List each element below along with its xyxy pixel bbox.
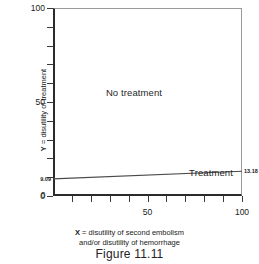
y-axis-title-text: = disutility of treatment [39, 69, 48, 146]
annotation-y-intercept: 9.09 [25, 176, 51, 182]
figure-11-11: No treatment Treatment 050100 050100 9.0… [0, 0, 259, 264]
y-tick-40 [47, 121, 53, 122]
y-axis-title-variable: Y [39, 146, 48, 151]
y-tick-30 [47, 140, 53, 141]
region-label-no-treatment: No treatment [106, 87, 162, 98]
x-tick-10 [72, 196, 73, 202]
x-tick-label-50: 50 [143, 207, 152, 217]
x-tick-100 [242, 196, 243, 202]
figure-caption: Figure 11.11 [0, 247, 259, 261]
x-tick-80 [204, 196, 205, 202]
x-tick-20 [91, 196, 92, 202]
x-tick-30 [110, 196, 111, 202]
y-tick-50 [47, 102, 53, 103]
x-tick-label-100: 100 [235, 207, 249, 217]
y-tick-80 [47, 46, 53, 47]
y-tick-90 [47, 27, 53, 28]
x-tick-label-0: 0 [41, 190, 46, 200]
x-axis-title: X = disutility of second embolism and/or… [0, 228, 259, 247]
x-tick-40 [129, 196, 130, 202]
x-axis-title-text-line1: = disutility of second embolism [80, 228, 184, 237]
annotation-right-endpoint: 13.18 [244, 168, 258, 174]
y-tick-0 [47, 196, 53, 197]
x-tick-60 [166, 196, 167, 202]
y-axis-title: Y = disutility of treatment [39, 50, 48, 170]
y-tick-label-50: 50 [11, 97, 45, 107]
x-axis-title-text-line2: and/or disutility of hemorrhage [79, 238, 180, 247]
y-tick-70 [47, 64, 53, 65]
region-label-treatment: Treatment [189, 167, 233, 178]
x-tick-70 [185, 196, 186, 202]
x-tick-50 [148, 196, 149, 202]
y-tick-20 [47, 158, 53, 159]
y-tick-100 [47, 8, 53, 9]
plot-area: No treatment Treatment [53, 8, 242, 196]
y-tick-label-100: 100 [11, 3, 45, 13]
y-tick-60 [47, 83, 53, 84]
x-tick-90 [223, 196, 224, 202]
